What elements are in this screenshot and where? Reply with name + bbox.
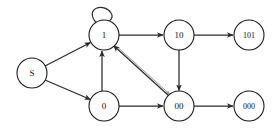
node-101-label: 101: [243, 31, 255, 40]
edge-1-to-00: [118, 48, 170, 95]
node-1-label: 1: [102, 30, 107, 40]
node-10-label: 10: [175, 30, 185, 40]
edge-s-to-0: [45, 80, 91, 100]
node-1[interactable]: 1: [89, 20, 119, 50]
node-s-label: S: [29, 68, 34, 78]
node-0-label: 0: [102, 101, 107, 111]
graph-svg: S 1 0 10 00 101: [0, 0, 280, 131]
node-s[interactable]: S: [17, 58, 47, 88]
node-000-label: 000: [243, 102, 255, 111]
diagram-canvas: S 1 0 10 00 101: [0, 0, 280, 131]
node-000[interactable]: 000: [234, 91, 264, 121]
node-0[interactable]: 0: [89, 91, 119, 121]
node-10[interactable]: 10: [164, 20, 194, 50]
edges-layer: [45, 7, 233, 106]
node-101[interactable]: 101: [234, 20, 264, 50]
edge-00-to-1: [114, 46, 169, 96]
node-00[interactable]: 00: [164, 91, 194, 121]
edge-s-to-1: [45, 43, 91, 67]
node-00-label: 00: [175, 101, 185, 111]
